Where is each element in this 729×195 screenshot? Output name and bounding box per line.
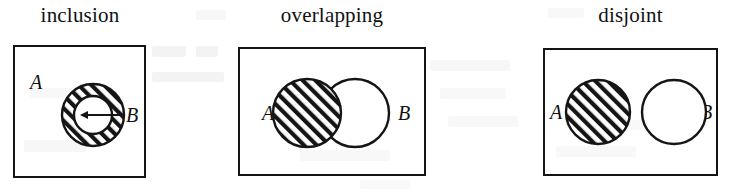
scan-bleed-mark [440,88,506,99]
panel-title-disjoint: disjoint [543,2,718,28]
panel-title-inclusion: inclusion [0,2,160,28]
scan-bleed-mark [430,60,510,71]
set-label-b-overlapping: B [398,103,410,123]
scan-bleed-mark [448,116,518,127]
set-label-a-inclusion: A [30,72,42,92]
inclusion-figure [55,77,145,157]
disjoint-figure [563,77,708,151]
set-label-a-disjoint: A [550,102,562,122]
scan-bleed-mark [196,46,218,57]
circle-b-disjoint [642,80,706,144]
panel-title-overlapping: overlapping [238,2,426,28]
overlapping-figure [268,74,393,154]
scan-bleed-mark [196,10,226,20]
scan-bleed-mark [152,72,224,82]
